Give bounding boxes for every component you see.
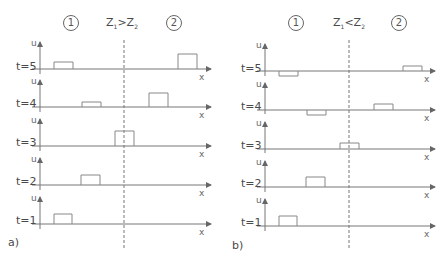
row-a-t1 (32, 197, 211, 229)
medium-1-marker-a: 1 (63, 15, 79, 31)
x-axis-label: x (424, 191, 429, 200)
row-b-t5 (257, 44, 435, 76)
time-label: t=4 (241, 101, 262, 112)
u-axis-label: u (31, 116, 37, 125)
z-right: Z (354, 16, 362, 29)
u-axis-label: u (256, 158, 262, 167)
row-b-t4 (257, 83, 435, 115)
x-axis-label: x (199, 228, 204, 237)
u-axis-label: u (31, 77, 37, 86)
z-left: Z (333, 16, 341, 29)
x-axis-label: x (199, 189, 204, 198)
comparison-op: < (344, 16, 353, 29)
u-axis-label: u (256, 119, 262, 128)
medium-2-marker-a: 2 (166, 15, 182, 31)
z-right: Z (127, 16, 135, 29)
row-b-t3 (257, 122, 435, 153)
u-axis-label: u (31, 155, 37, 164)
u-axis-label: u (31, 194, 37, 203)
x-axis-label: x (424, 75, 429, 84)
x-axis-label: x (424, 153, 429, 162)
x-axis-label: x (424, 114, 429, 123)
x-axis-label: x (199, 150, 204, 159)
u-axis-label: u (256, 80, 262, 89)
panel-label-b: b) (232, 240, 243, 251)
z-left: Z (106, 16, 114, 29)
x-axis-label: x (199, 111, 204, 120)
x-axis-label: x (424, 230, 429, 239)
time-label: t=4 (16, 98, 37, 109)
time-label: t=1 (241, 217, 262, 228)
medium-2-marker-b: 2 (391, 15, 407, 31)
u-axis-label: u (256, 196, 262, 205)
panel-a-graphics (32, 40, 211, 250)
panel-label-a: a) (8, 237, 19, 248)
row-b-t2 (257, 161, 435, 192)
row-a-t5 (32, 42, 211, 74)
diagram: 1 2 Z1>Z2 u t=5 x u t=4 x u t=3 x u t=2 … (0, 0, 447, 265)
x-axis-label: x (199, 73, 204, 82)
row-b-t1 (257, 199, 435, 231)
time-label: t=2 (16, 176, 37, 187)
time-label: t=1 (16, 215, 37, 226)
u-axis-label: u (256, 41, 262, 50)
row-a-t3 (32, 119, 211, 151)
impedance-condition-b: Z1<Z2 (333, 17, 365, 30)
row-a-t2 (32, 158, 211, 190)
time-label: t=3 (241, 140, 262, 151)
medium-1-marker-b: 1 (288, 15, 304, 31)
time-label: t=2 (241, 178, 262, 189)
row-a-t4 (32, 80, 211, 112)
time-label: t=5 (16, 61, 37, 72)
time-label: t=5 (241, 63, 262, 74)
diagram-graphics (0, 0, 447, 265)
z-right-sub: 2 (134, 23, 138, 30)
comparison-op: > (117, 16, 126, 29)
u-axis-label: u (31, 39, 37, 48)
z-right-sub: 2 (361, 23, 365, 30)
impedance-condition-a: Z1>Z2 (106, 17, 138, 30)
panel-b-graphics (257, 40, 435, 250)
time-label: t=3 (16, 137, 37, 148)
